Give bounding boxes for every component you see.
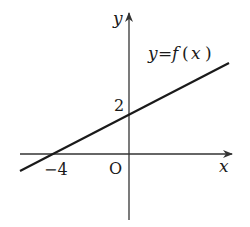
graph-svg: y x O −4 2 y = f ( x ) [0,0,250,227]
y-axis-label: y [112,8,123,28]
function-label-lparen: ( [182,43,189,63]
function-label-y: y [147,43,158,63]
function-label-eq: = [158,43,172,63]
function-line [20,63,229,171]
x-axis-label: x [219,156,229,176]
x-intercept-label: −4 [44,160,68,179]
graph-canvas: y x O −4 2 y = f ( x ) [0,0,250,227]
function-label-f: f [170,43,181,63]
function-label-x: x [191,43,201,63]
origin-label: O [109,159,122,178]
function-label-rparen: ) [205,43,212,63]
y-intercept-label: 2 [114,96,124,115]
function-label: y = f ( x ) [147,43,212,63]
